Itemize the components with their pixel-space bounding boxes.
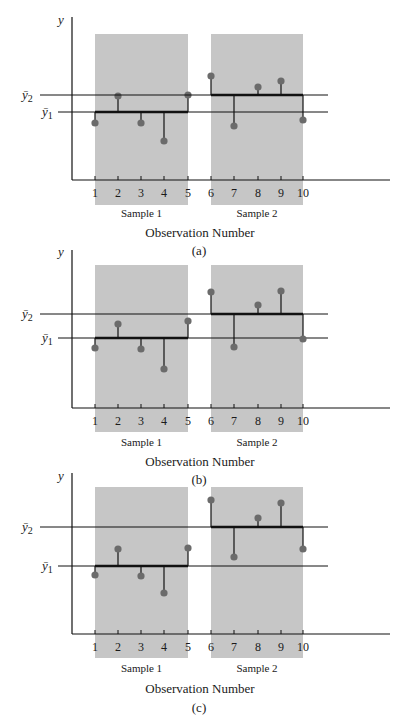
x-tick-label: 3 [138, 640, 144, 654]
data-point [207, 72, 214, 79]
sample-shade-2 [211, 487, 303, 658]
data-point [277, 77, 284, 84]
x-tick-label: 3 [138, 414, 144, 428]
sample-shade-2 [211, 34, 303, 205]
x-tick-label: 7 [231, 640, 237, 654]
sample-shade-2 [211, 265, 303, 432]
x-tick-label: 8 [255, 186, 261, 200]
sample-label-1: Sample 1 [121, 662, 162, 674]
data-point [230, 343, 237, 350]
x-tick-label: 5 [185, 640, 191, 654]
x-tick-label: 9 [278, 640, 284, 654]
data-point [160, 365, 167, 372]
x-tick-label: 4 [161, 186, 167, 200]
x-tick-label: 4 [161, 414, 167, 428]
y-axis-label: y [56, 244, 64, 259]
x-tick-label: 3 [138, 186, 144, 200]
mean-label-1: ȳ1 [40, 558, 53, 575]
chart-panel-c: yȳ1ȳ212345678910Sample 1Sample 2Observat… [20, 468, 390, 715]
sample-label-1: Sample 1 [121, 207, 162, 219]
x-axis-label: Observation Number [145, 225, 255, 240]
x-tick-label: 4 [161, 640, 167, 654]
x-tick-label: 2 [115, 414, 121, 428]
data-point [91, 344, 98, 351]
x-tick-label: 9 [278, 414, 284, 428]
data-point [137, 119, 144, 126]
data-point [230, 122, 237, 129]
chart-panel-b: yȳ1ȳ212345678910Sample 1Sample 2Observat… [20, 244, 390, 487]
panel-label: (a) [192, 243, 206, 258]
x-tick-label: 2 [115, 640, 121, 654]
data-point [91, 119, 98, 126]
data-point [230, 553, 237, 560]
panel-label: (b) [191, 472, 206, 487]
data-point [207, 496, 214, 503]
data-point [160, 137, 167, 144]
figure: yȳ1ȳ212345678910Sample 1Sample 2Observat… [0, 0, 414, 722]
data-point [207, 288, 214, 295]
panel-label: (c) [192, 700, 206, 715]
chart-panel-a: yȳ1ȳ212345678910Sample 1Sample 2Observat… [20, 12, 390, 258]
x-tick-label: 5 [185, 186, 191, 200]
data-point [184, 317, 191, 324]
data-point [91, 571, 98, 578]
data-point [160, 589, 167, 596]
mean-label-2: ȳ2 [20, 87, 33, 104]
data-point [184, 544, 191, 551]
x-tick-label: 1 [92, 640, 98, 654]
data-point [299, 335, 306, 342]
x-tick-label: 10 [297, 640, 309, 654]
x-tick-label: 5 [185, 414, 191, 428]
x-tick-label: 9 [278, 186, 284, 200]
x-tick-label: 10 [297, 414, 309, 428]
x-tick-label: 7 [231, 186, 237, 200]
y-axis-label: y [56, 12, 64, 27]
sample-label-2: Sample 2 [236, 207, 277, 219]
data-point [114, 92, 121, 99]
data-point [254, 514, 261, 521]
mean-label-2: ȳ2 [20, 519, 33, 536]
mean-label-2: ȳ2 [20, 306, 33, 323]
data-point [114, 545, 121, 552]
x-axis-label: Observation Number [145, 681, 255, 696]
data-point [299, 545, 306, 552]
data-point [277, 287, 284, 294]
sample-label-1: Sample 1 [121, 436, 162, 448]
x-tick-label: 7 [231, 414, 237, 428]
x-tick-label: 8 [255, 640, 261, 654]
mean-label-1: ȳ1 [40, 330, 53, 347]
y-axis-label: y [56, 468, 64, 483]
x-tick-label: 6 [208, 186, 214, 200]
mean-label-1: ȳ1 [40, 104, 53, 121]
x-tick-label: 6 [208, 640, 214, 654]
data-point [254, 301, 261, 308]
sample-label-2: Sample 2 [236, 436, 277, 448]
x-tick-label: 1 [92, 414, 98, 428]
x-tick-label: 6 [208, 414, 214, 428]
x-axis-label: Observation Number [145, 454, 255, 469]
data-point [137, 572, 144, 579]
x-tick-label: 2 [115, 186, 121, 200]
data-point [299, 116, 306, 123]
data-point [137, 345, 144, 352]
sample-label-2: Sample 2 [236, 662, 277, 674]
data-point [277, 499, 284, 506]
x-tick-label: 10 [297, 186, 309, 200]
data-point [254, 83, 261, 90]
x-tick-label: 8 [255, 414, 261, 428]
x-tick-label: 1 [92, 186, 98, 200]
data-point [114, 320, 121, 327]
